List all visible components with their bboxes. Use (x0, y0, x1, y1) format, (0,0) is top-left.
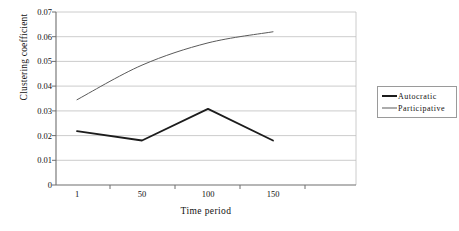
y-axis-ticks (52, 12, 56, 185)
x-tick-label: 1 (57, 189, 97, 199)
legend-item-label: Participative (398, 104, 445, 113)
legend-line-swatch-icon (381, 103, 398, 113)
chart-figure: Clustering coefficient 0.07 0.06 0.05 0.… (0, 0, 459, 231)
chart-legend: Autocratic Participative (377, 86, 457, 118)
x-tick-label: 100 (188, 189, 228, 199)
legend-line-swatch-icon (381, 91, 398, 101)
x-tick-label: 50 (122, 189, 162, 199)
series-line-participative (77, 32, 273, 100)
x-tick-label: 150 (253, 189, 293, 199)
legend-item-label: Autocratic (398, 92, 437, 101)
legend-item-autocratic: Autocratic (380, 90, 454, 102)
x-axis-title: Time period (56, 206, 356, 216)
legend-item-participative: Participative (380, 102, 454, 114)
